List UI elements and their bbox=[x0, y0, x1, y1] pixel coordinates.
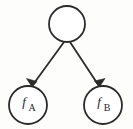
edge-root-to-leaf-b bbox=[70, 42, 99, 86]
edge-group bbox=[27, 42, 106, 87]
factor-tree-diagram: f A f B bbox=[0, 0, 133, 129]
edge-root-to-leaf-a bbox=[32, 42, 64, 86]
diagram-canvas: f A f B bbox=[0, 0, 133, 129]
node-leaf-b[interactable]: f B bbox=[84, 86, 122, 124]
node-root[interactable] bbox=[49, 6, 85, 42]
leaf-b-label-subscript: B bbox=[104, 102, 111, 113]
leaf-a-label-subscript: A bbox=[28, 102, 36, 113]
root-circle[interactable] bbox=[49, 6, 85, 42]
node-leaf-a[interactable]: f A bbox=[9, 86, 47, 124]
